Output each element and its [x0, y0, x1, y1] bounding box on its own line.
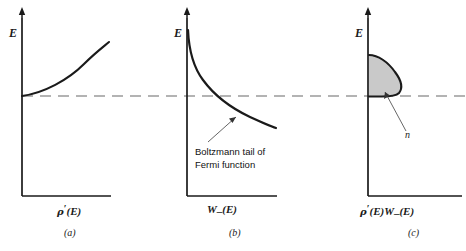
panel-a-caption: (a) — [64, 228, 76, 238]
panel-c-x-axis-label: ρ′(E)W–(E) — [360, 204, 414, 219]
panel-a-y-axis-label: E — [9, 27, 17, 39]
panel-b-y-axis-label: E — [174, 27, 182, 39]
panel-c-rho-symbol: ρ — [360, 206, 367, 217]
panel-c-n-leader-line — [385, 92, 406, 131]
panel-a-x-axis-label: ρ′(E) — [57, 204, 81, 217]
panel-a-energy-paren: (E) — [66, 205, 81, 217]
panel-b-w-symbol: W — [207, 203, 217, 215]
panel-b-annotation-line-2: Fermi function — [195, 159, 265, 172]
panel-c-y-axis-label: E — [355, 27, 363, 39]
panel-c-energy-paren-2: (E) — [399, 205, 414, 217]
panel-a-density-of-states-curve — [22, 42, 109, 96]
panel-b-annotation-line-1: Boltzmann tail of — [195, 146, 265, 159]
panel-b-energy-paren: (E) — [222, 203, 237, 215]
panel-c-energy-paren-1: (E) — [369, 205, 384, 217]
panel-c-carrier-concentration-label: n — [405, 130, 410, 140]
panel-a-plot — [22, 10, 111, 196]
panel-c-y-axis-arrowhead — [365, 7, 371, 15]
three-panel-physics-figure: E ρ′(E) (a) E Boltzmann tail of Fermi fu… — [0, 0, 466, 251]
panel-c-caption: (c) — [408, 228, 419, 238]
panel-a-y-axis-arrowhead — [19, 7, 25, 15]
panel-b-boltzmann-tail-curve — [188, 30, 276, 128]
panel-b-annotation: Boltzmann tail of Fermi function — [195, 146, 265, 172]
panel-b-x-axis-label: W–(E) — [207, 204, 237, 217]
panel-c-w-symbol: W — [384, 205, 394, 217]
panel-c-plot — [368, 10, 462, 196]
panel-b-caption: (b) — [229, 228, 241, 238]
panel-b-y-axis-arrowhead — [184, 7, 190, 15]
panel-a-rho-symbol: ρ — [57, 206, 64, 217]
